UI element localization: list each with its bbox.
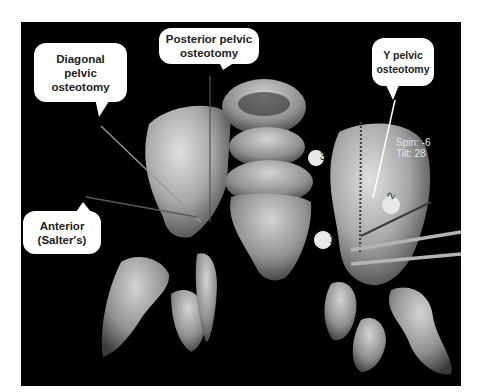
marker-3-label: 3	[320, 151, 326, 162]
ct-image-frame: Diagonal pelvic osteotomy Posterior pelv…	[21, 22, 461, 386]
y-osteotomy-callout: Y pelvic osteotomy	[372, 38, 434, 86]
anterior-salter-callout: Anterior (Salter's)	[23, 211, 101, 254]
right-femur	[389, 288, 452, 375]
diagonal-osteotomy-callout: Diagonal pelvic osteotomy	[34, 43, 127, 102]
y-callout-line1: Y pelvic	[376, 48, 429, 62]
left-femur	[102, 257, 169, 357]
tilt-value: Tilt: 28	[396, 148, 430, 159]
diagonal-callout-line1: Diagonal pelvic	[40, 52, 121, 80]
right-ischium	[353, 318, 386, 372]
viewer-orientation-overlay: Spin: -6 Tilt: 28	[396, 137, 430, 159]
sacrum	[230, 194, 311, 281]
y-callout-pointer	[386, 85, 399, 100]
anterior-callout-line1: Anterior	[38, 219, 87, 233]
marker-1-label: 1	[329, 234, 335, 245]
y-callout-line2: osteotomy	[376, 62, 429, 76]
spin-value: Spin: -6	[396, 137, 430, 148]
left-ilium	[145, 106, 231, 238]
posterior-callout-line1: Posterior pelvic	[166, 32, 252, 46]
posterior-osteotomy-callout: Posterior pelvic osteotomy	[159, 28, 259, 64]
diagonal-callout-line2: osteotomy	[40, 80, 121, 94]
posterior-callout-line2: osteotomy	[166, 46, 252, 60]
anterior-callout-line2: (Salter's)	[38, 233, 87, 247]
